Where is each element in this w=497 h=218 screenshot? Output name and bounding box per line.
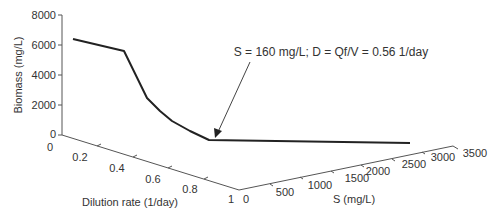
z-tick-label: 0 [50, 128, 56, 140]
y-tick-label: 0 [243, 193, 249, 205]
y-tick-label: 1000 [308, 179, 332, 191]
x-axis-label: Dilution rate (1/day) [82, 196, 178, 208]
z-tick-label: 8000 [32, 9, 56, 21]
annotation-arrow [214, 62, 250, 138]
z-tick-labels: 8000 6000 4000 2000 0 [32, 9, 56, 140]
y-tick-label: 2500 [402, 158, 426, 170]
y-tick-label: 500 [276, 186, 294, 198]
x-tick-label: 0.4 [109, 162, 124, 174]
y-tick-label: 3000 [431, 151, 455, 163]
x-tick-label: 0.2 [72, 151, 87, 163]
x-tick-label: 0.6 [145, 173, 160, 185]
z-axis [58, 15, 62, 135]
x-tick-label: 0.8 [182, 183, 197, 195]
x-tick-label: 1 [228, 193, 234, 205]
x-tick-label: 0 [47, 141, 53, 153]
y-axis-label: S (mg/L) [333, 193, 375, 205]
z-tick-label: 4000 [32, 69, 56, 81]
annotation-text: S = 160 mg/L; D = Qf/V = 0.56 1/day [234, 45, 428, 59]
biomass-3d-chart: 8000 6000 4000 2000 0 Biomass (mg/L) 0 0… [0, 0, 497, 218]
z-tick-label: 2000 [32, 99, 56, 111]
z-axis-label: Biomass (mg/L) [12, 36, 24, 113]
y-tick-label: 3500 [463, 147, 487, 159]
y-tick-label: 2000 [366, 165, 390, 177]
z-tick-label: 6000 [32, 39, 56, 51]
